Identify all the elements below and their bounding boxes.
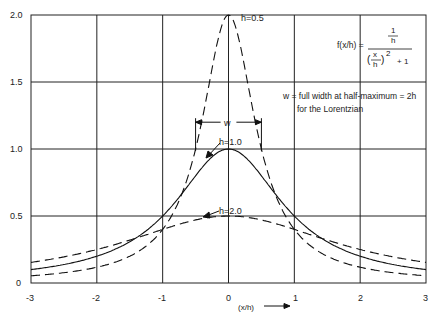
svg-text:2: 2 [386,49,391,58]
x-axis-label: (x/h) [238,303,254,312]
x-tick-1: 1 [293,293,298,303]
y-tick-1.5: 1.5 [10,77,23,87]
formula-num-den: h [391,36,395,45]
x-tick-2: 2 [358,293,363,303]
x-tick-3: 3 [423,293,428,303]
x-tick--2: -2 [92,293,100,303]
formula-num: 1 [391,26,395,35]
y-tick-2.0: 2.0 [10,10,23,20]
formula-rest: + 1 [397,57,408,66]
y-tick-0.5: 0.5 [10,211,23,221]
label-h-2.0: h=2.0 [219,206,242,216]
formula-x: x [373,50,377,59]
label-h-0.5: h=0.5 [241,13,264,23]
x-tick--3: -3 [26,293,34,303]
svg-text:): ) [381,54,384,65]
label-h-1.0: h=1.0 [219,137,242,147]
y-tick-1.0: 1.0 [10,144,23,154]
x-tick-0: 0 [226,293,231,303]
lorentzian-plot: ()2 [0,0,437,314]
fwhm-text-line1: w = full width at half-maximum = 2h [283,91,416,101]
formula-h: h [373,60,377,69]
x-tick--1: -1 [158,293,166,303]
label-w: w [224,118,231,128]
svg-text:(: ( [367,54,371,65]
y-tick-0: 0 [16,278,21,288]
formula-lhs: f(x/h) = [337,40,364,50]
fwhm-text-line2: for the Lorentzian [297,104,363,114]
